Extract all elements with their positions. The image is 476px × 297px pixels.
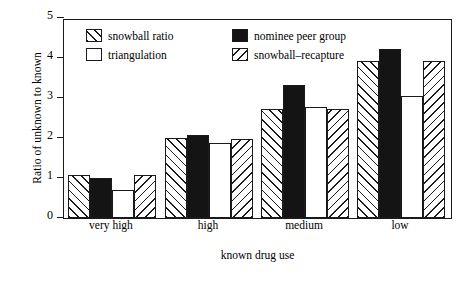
bar-township-d-snowball-ratio: [357, 61, 379, 218]
legend-item-triangulation: triangulation: [86, 48, 232, 61]
legend-label-0: snowball ratio: [108, 30, 173, 42]
bar-township-b-snowball-ratio: [165, 138, 187, 218]
y-tick-4: 4: [57, 57, 64, 58]
x-group-label-line2: low: [340, 219, 460, 233]
y-tick-label-1: 1: [47, 169, 53, 181]
legend-item-snowball-recapture: snowball–recapture: [232, 48, 344, 61]
solid-black-swatch-icon: [232, 29, 248, 42]
legend-item-snowball-ratio: snowball ratio: [86, 29, 232, 42]
bar-township-c-snowball-recapture: [327, 109, 349, 218]
y-tick-2: 2: [57, 137, 64, 138]
y-tick-label-3: 3: [47, 89, 53, 101]
legend-item-nominee-peer-group: nominee peer group: [232, 29, 346, 42]
bar-township-c-triangulation: [305, 107, 327, 218]
bar-township-d-nominee-peer-group: [379, 49, 401, 218]
y-tick-1: 1: [57, 177, 64, 178]
backward-hatch-swatch-icon: [232, 48, 248, 61]
bar-township-a-snowball-ratio: [68, 175, 90, 218]
bar-township-b-nominee-peer-group: [187, 135, 209, 218]
legend-row-2: triangulation snowball–recapture: [86, 45, 386, 64]
bar-township-a-triangulation: [112, 190, 134, 218]
bar-township-d-triangulation: [401, 96, 423, 218]
x-axis-title: known drug use: [63, 249, 452, 261]
bar-township-a-snowball-recapture: [134, 175, 156, 218]
y-tick-5: 5: [57, 17, 64, 18]
chart-legend: snowball ratio nominee peer group triang…: [86, 26, 386, 64]
forward-hatch-swatch-icon: [86, 29, 102, 42]
y-tick-label-4: 4: [47, 49, 53, 61]
y-axis-title: Ratio of unknown to known: [31, 18, 43, 218]
bar-township-b-snowball-recapture: [231, 139, 253, 218]
y-tick-3: 3: [57, 97, 64, 98]
legend-row-1: snowball ratio nominee peer group: [86, 26, 386, 45]
bar-township-c-snowball-ratio: [261, 109, 283, 218]
y-tick-label-5: 5: [47, 9, 53, 21]
bar-township-d-snowball-recapture: [423, 61, 445, 218]
legend-label-1: nominee peer group: [254, 30, 346, 42]
bar-township-b-triangulation: [209, 143, 231, 218]
legend-label-3: snowball–recapture: [254, 49, 344, 61]
legend-label-2: triangulation: [108, 49, 167, 61]
y-tick-label-2: 2: [47, 129, 53, 141]
bar-township-a-nominee-peer-group: [90, 178, 112, 218]
plot-area: 0 1 2 3 4 5 snowball ratio: [63, 19, 452, 219]
bar-chart-figure: Ratio of unknown to known 0 1 2 3 4 5: [0, 0, 476, 297]
bar-township-c-nominee-peer-group: [283, 85, 305, 218]
white-swatch-icon: [86, 48, 102, 61]
